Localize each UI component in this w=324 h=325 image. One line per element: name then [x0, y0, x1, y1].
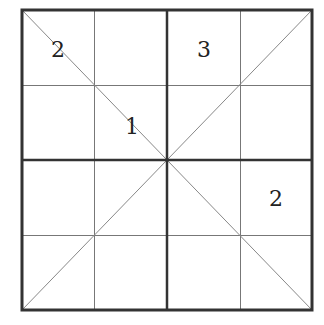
- cell-r2-c2[interactable]: [167, 160, 240, 235]
- cell-r1-c2[interactable]: [167, 85, 240, 160]
- cell-r2-c0[interactable]: [22, 160, 94, 235]
- given-digit-r0-c0: 2: [51, 37, 65, 62]
- cell-r0-c1[interactable]: [94, 10, 167, 85]
- cell-r0-c3[interactable]: [240, 10, 312, 85]
- cell-r3-c2[interactable]: [167, 235, 240, 310]
- cell-r3-c3[interactable]: [240, 235, 312, 310]
- given-digit-r2-c3: 2: [269, 186, 283, 211]
- cells[interactable]: [22, 10, 312, 310]
- given-digit-r1-c1: 1: [125, 114, 139, 139]
- cell-r2-c1[interactable]: [94, 160, 167, 235]
- given-digit-r0-c2: 3: [197, 37, 211, 62]
- sudoku-board: 2 3 1 2: [0, 0, 324, 325]
- cell-r1-c3[interactable]: [240, 85, 312, 160]
- cell-r1-c0[interactable]: [22, 85, 94, 160]
- cell-r3-c0[interactable]: [22, 235, 94, 310]
- cell-r3-c1[interactable]: [94, 235, 167, 310]
